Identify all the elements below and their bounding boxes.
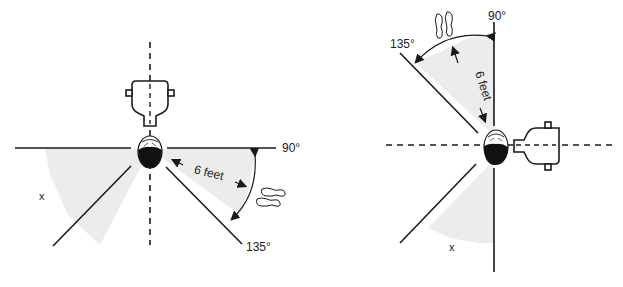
right-angle-90-label: 90°: [488, 9, 506, 23]
left-angle-90-label: 90°: [282, 141, 300, 155]
right-figure: 6 feet 90° 135° x: [386, 9, 612, 272]
left-angle-135-label: 135°: [246, 240, 271, 254]
right-zone-x-label: x: [449, 241, 455, 253]
left-figure: 6 feet 90° 135° x: [15, 42, 300, 254]
head-icon: [484, 130, 508, 165]
footprints-icon: [257, 188, 286, 206]
left-shade-zone-x: [45, 149, 150, 245]
left-zone-x-label: x: [39, 190, 45, 202]
right-shade-zone-x: [428, 160, 494, 243]
head-icon: [138, 136, 162, 168]
diagram-canvas: 6 feet 90° 135° x: [0, 0, 623, 287]
camera-icon: [514, 122, 559, 170]
footprints-icon: [435, 12, 452, 38]
right-angle-135-label: 135°: [390, 37, 415, 51]
